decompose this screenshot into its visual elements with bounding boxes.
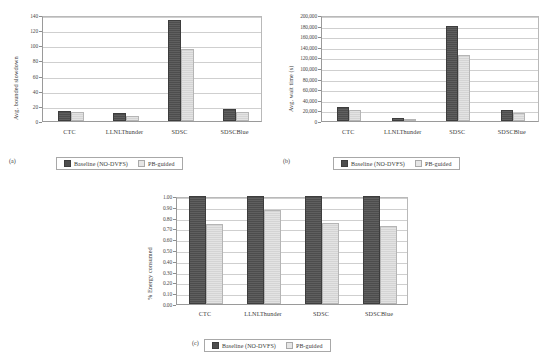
bar-sdscblue-series1 (513, 113, 525, 121)
y-axis-tick-mark (39, 92, 42, 93)
legend-swatch-baseline-icon (341, 160, 348, 167)
legend-b: Baseline (NO-DVFS) PB-guided (333, 157, 460, 170)
bar-llnlthunder-series1 (126, 116, 139, 121)
bar-ctc-series0 (189, 196, 206, 304)
bar-llnlthunder-series0 (392, 118, 404, 121)
y-axis-tick-mark (173, 305, 176, 306)
y-axis-title-b: Avg. wait time (s) (287, 66, 294, 112)
y-axis-tick-label: 160,000 (300, 34, 317, 40)
x-axis-label-llnlthunder: LLNLThunder (384, 128, 421, 135)
y-axis-tick-label: 0.90 (163, 205, 172, 211)
legend-a: Baseline (NO-DVFS) PB-guided (56, 157, 183, 170)
bar-sdscblue-series1 (380, 226, 397, 304)
y-axis-tick-mark (318, 80, 321, 81)
y-axis-tick-mark (173, 294, 176, 295)
x-axis-label-ctc: CTC (199, 310, 211, 317)
y-axis-tick-mark (318, 58, 321, 59)
y-axis-tick-label: 0.20 (163, 280, 172, 286)
figure-panel-b: Avg. wait time (s) Baseline (NO-DVFS) PB… (273, 2, 547, 178)
bar-ctc-series1 (349, 110, 361, 121)
y-axis-tick-mark (173, 219, 176, 220)
y-axis-tick-label: 180,000 (300, 24, 317, 30)
plot-area-c (176, 197, 408, 305)
y-axis-tick-label: 140 (30, 13, 38, 19)
bar-sdscblue-series0 (363, 196, 380, 304)
plot-area-a (42, 16, 262, 122)
y-axis-tick-label: 40,000 (303, 98, 317, 104)
y-axis-tick-mark (39, 31, 42, 32)
y-axis-tick-mark (173, 273, 176, 274)
gridline (43, 32, 261, 33)
y-axis-tick-mark (39, 107, 42, 108)
x-axis-label-sdsc: SDSC (449, 128, 465, 135)
y-axis-tick-mark (173, 262, 176, 263)
y-axis-tick-label: 80,000 (303, 77, 317, 83)
y-axis-tick-label: 0.70 (163, 226, 172, 232)
bar-ctc-series1 (71, 112, 84, 121)
legend-c: Baseline (NO-DVFS) PB-guided (204, 339, 331, 352)
gridline (43, 78, 261, 79)
figure-panel-c: % Energy consumed Baseline (NO-DVFS) PB-… (132, 182, 422, 360)
x-axis-label-sdsc: SDSC (172, 128, 188, 135)
legend-item-baseline: Baseline (NO-DVFS) (64, 160, 128, 167)
bar-ctc-series1 (206, 224, 223, 304)
y-axis-tick-mark (173, 240, 176, 241)
y-axis-tick-label: 100 (30, 43, 38, 49)
x-axis-label-sdscblue: SDSCBlue (365, 310, 393, 317)
legend-item-pb-guided: PB-guided (138, 160, 175, 167)
legend-label-baseline: Baseline (NO-DVFS) (222, 343, 276, 349)
legend-label-baseline: Baseline (NO-DVFS) (351, 161, 405, 167)
y-axis-tick-label: 0.80 (163, 216, 172, 222)
legend-item-pb-guided: PB-guided (415, 160, 452, 167)
y-axis-tick-mark (318, 16, 321, 17)
legend-swatch-pb-guided-icon (415, 160, 422, 167)
y-axis-tick-label: 40 (33, 89, 38, 95)
bar-ctc-series0 (337, 107, 349, 121)
y-axis-tick-label: 0 (35, 119, 38, 125)
bar-sdsc-series1 (322, 223, 339, 304)
x-axis-label-ctc: CTC (342, 128, 354, 135)
bar-sdsc-series0 (168, 20, 181, 121)
legend-item-pb-guided: PB-guided (286, 342, 323, 349)
x-axis-label-sdscblue: SDSCBlue (498, 128, 526, 135)
bar-sdsc-series1 (458, 55, 470, 121)
y-axis-tick-mark (39, 16, 42, 17)
y-axis-tick-label: 0.30 (163, 270, 172, 276)
y-axis-tick-mark (173, 197, 176, 198)
y-axis-tick-label: 1.00 (163, 194, 172, 200)
legend-label-pb-guided: PB-guided (425, 161, 452, 167)
bar-llnlthunder-series1 (404, 119, 416, 121)
y-axis-tick-mark (173, 283, 176, 284)
gridline (322, 49, 538, 50)
legend-swatch-pb-guided-icon (138, 160, 145, 167)
bar-llnlthunder-series1 (264, 210, 281, 304)
bar-sdsc-series0 (446, 26, 458, 121)
figure-panel-a: Avg. bounded slowdown Baseline (NO-DVFS)… (0, 2, 272, 178)
y-axis-title-a: Avg. bounded slowdown (12, 56, 19, 120)
gridline (322, 70, 538, 71)
y-axis-tick-label: 140,000 (300, 45, 317, 51)
x-axis-label-llnlthunder: LLNLThunder (244, 310, 281, 317)
gridline (322, 102, 538, 103)
gridline (322, 59, 538, 60)
y-axis-tick-mark (39, 122, 42, 123)
bar-sdscblue-series1 (236, 112, 249, 121)
y-axis-tick-label: 0.10 (163, 291, 172, 297)
y-axis-tick-mark (173, 229, 176, 230)
gridline (43, 47, 261, 48)
y-axis-tick-label: 60 (33, 74, 38, 80)
gridline (322, 28, 538, 29)
y-axis-tick-mark (318, 90, 321, 91)
x-axis-label-sdscblue: SDSCBlue (221, 128, 249, 135)
legend-item-baseline: Baseline (NO-DVFS) (341, 160, 405, 167)
legend-label-pb-guided: PB-guided (296, 343, 323, 349)
bar-sdsc-series0 (305, 196, 322, 304)
gridline (43, 17, 261, 18)
y-axis-tick-mark (318, 37, 321, 38)
x-axis-label-ctc: CTC (63, 128, 75, 135)
y-axis-tick-label: 0.40 (163, 259, 172, 265)
y-axis-tick-label: 0.50 (163, 248, 172, 254)
y-axis-tick-mark (318, 48, 321, 49)
bar-sdscblue-series0 (223, 109, 236, 121)
y-axis-tick-label: 0.60 (163, 237, 172, 243)
